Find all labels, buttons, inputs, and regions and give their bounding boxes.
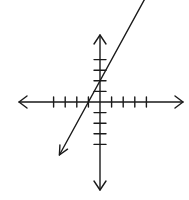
series-line bbox=[59, 0, 152, 155]
coordinate-plane bbox=[0, 0, 189, 200]
graph-svg bbox=[0, 0, 189, 200]
data-line bbox=[59, 0, 152, 155]
x-axis bbox=[19, 96, 183, 108]
